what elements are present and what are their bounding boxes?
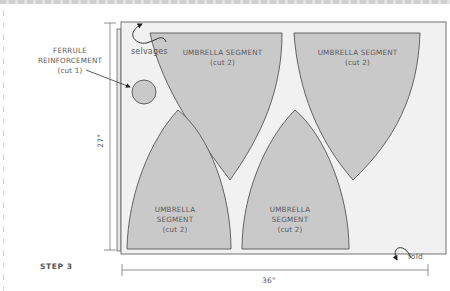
segment-bottom-right-line1: UMBRELLA (260, 205, 320, 215)
segment-top-left-label: UMBRELLA SEGMENT (cut 2) (175, 48, 270, 68)
segment-bottom-left-line3: (cut 2) (145, 225, 205, 235)
ferrule-label-line2: REINFORCEMENT (30, 56, 110, 66)
segment-top-left-line2: (cut 2) (175, 58, 270, 68)
ferrule-label-line1: FERRULE (30, 46, 110, 56)
segment-bottom-right-line3: (cut 2) (260, 225, 320, 235)
ferrule-reinforcement-circle (132, 80, 156, 104)
width-dimension-line (122, 264, 428, 276)
segment-bottom-right-label: UMBRELLA SEGMENT (cut 2) (260, 205, 320, 235)
ferrule-label-line3: (cut 1) (30, 66, 110, 76)
selvages-label: selvages (131, 47, 168, 57)
height-dimension-label: 27" (96, 134, 106, 148)
segment-top-right-label: UMBRELLA SEGMENT (cut 2) (310, 48, 405, 68)
segment-top-right-line1: UMBRELLA SEGMENT (310, 48, 405, 58)
segment-top-left-line1: UMBRELLA SEGMENT (175, 48, 270, 58)
cutting-layout-diagram (0, 0, 450, 291)
width-dimension-label: 36" (262, 276, 276, 286)
segment-top-right-line2: (cut 2) (310, 58, 405, 68)
step-label: STEP 3 (40, 262, 73, 271)
fold-label: fold (408, 252, 423, 262)
segment-bottom-left-line2: SEGMENT (145, 215, 205, 225)
segment-bottom-left-line1: UMBRELLA (145, 205, 205, 215)
segment-bottom-left-label: UMBRELLA SEGMENT (cut 2) (145, 205, 205, 235)
ferrule-label: FERRULE REINFORCEMENT (cut 1) (30, 46, 110, 76)
segment-bottom-right-line2: SEGMENT (260, 215, 320, 225)
